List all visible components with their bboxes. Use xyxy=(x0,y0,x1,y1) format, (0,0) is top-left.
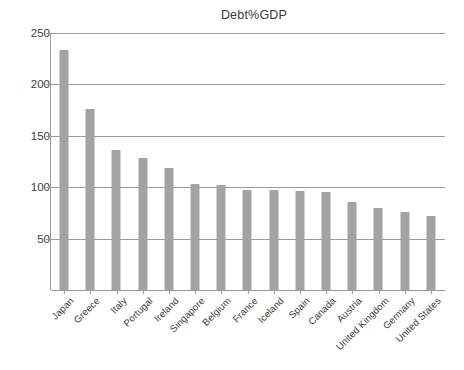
chart-title: Debt%GDP xyxy=(0,8,464,22)
x-axis-labels: JapanGreeceItalyPortugalIrelandSingapore… xyxy=(51,295,444,367)
x-axis-tick-mark xyxy=(195,290,196,294)
y-axis-tick-label: 100 xyxy=(8,181,50,193)
y-axis: 25020015010050 xyxy=(0,33,50,291)
bar-slot xyxy=(234,33,260,290)
x-axis-tick-label: Greece xyxy=(72,295,102,325)
x-axis-tick-mark xyxy=(274,290,275,294)
bar-slot xyxy=(365,33,391,290)
x-axis-tick-label: Canada xyxy=(306,295,338,327)
x-axis-tick-mark xyxy=(248,290,249,294)
y-axis-tick-label: 150 xyxy=(8,130,50,142)
x-axis-tick-mark xyxy=(300,290,301,294)
bar-slot xyxy=(103,33,129,290)
x-axis-tick-mark xyxy=(117,290,118,294)
x-axis-tick-mark xyxy=(379,290,380,294)
bar xyxy=(295,191,304,290)
bar xyxy=(400,212,409,290)
bar xyxy=(164,168,173,290)
x-axis-tick-label: Belgium xyxy=(200,295,233,328)
x-axis-tick-label: Italy xyxy=(108,295,129,316)
bar-slot xyxy=(77,33,103,290)
bar xyxy=(374,208,383,290)
x-axis-tick-label: France xyxy=(230,295,259,324)
y-axis-tick-label: 200 xyxy=(8,78,50,90)
chart-screenshot: Debt%GDP 25020015010050 JapanGreeceItaly… xyxy=(0,0,464,370)
bar xyxy=(191,184,200,290)
bar xyxy=(138,158,147,290)
bar xyxy=(217,185,226,290)
y-axis-tick-label: 50 xyxy=(8,233,50,245)
bar xyxy=(243,190,252,290)
x-axis-tick-mark xyxy=(326,290,327,294)
bar-slot xyxy=(339,33,365,290)
bar-slot xyxy=(208,33,234,290)
bar-slot xyxy=(182,33,208,290)
x-axis-tick-mark xyxy=(143,290,144,294)
bar-slot xyxy=(261,33,287,290)
x-axis-tick-label: Iceland xyxy=(255,295,285,325)
bar xyxy=(112,150,121,290)
bar xyxy=(348,202,357,290)
bar-slot xyxy=(156,33,182,290)
x-axis-tick-mark xyxy=(64,290,65,294)
bar-series xyxy=(51,33,444,290)
x-axis-tick-mark xyxy=(90,290,91,294)
bar-slot xyxy=(130,33,156,290)
bar-slot xyxy=(392,33,418,290)
bar-slot xyxy=(51,33,77,290)
x-axis-tick-mark xyxy=(352,290,353,294)
bar xyxy=(60,50,69,290)
y-axis-tick-label: 250 xyxy=(8,27,50,39)
x-axis-tick-mark xyxy=(405,290,406,294)
bar xyxy=(86,109,95,290)
bar xyxy=(322,192,331,290)
bar xyxy=(426,216,435,290)
x-axis-tick-mark xyxy=(169,290,170,294)
bar xyxy=(269,190,278,290)
x-axis-tick-mark xyxy=(431,290,432,294)
x-axis-tick-mark xyxy=(221,290,222,294)
bar-slot xyxy=(418,33,444,290)
bar-slot xyxy=(287,33,313,290)
bar-slot xyxy=(313,33,339,290)
